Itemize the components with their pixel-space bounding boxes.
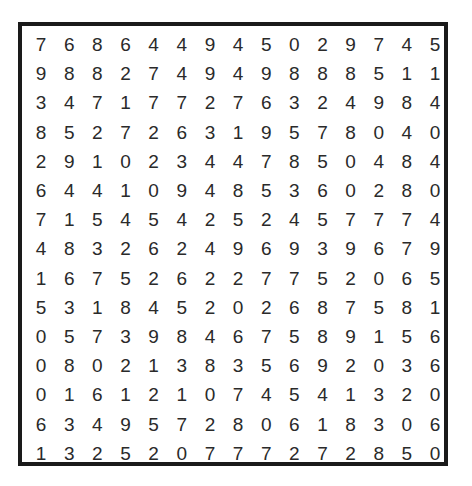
grid-cell: 4: [27, 234, 55, 263]
grid-cell: 0: [224, 293, 252, 322]
grid-cell: 3: [280, 176, 308, 205]
grid-cell: 2: [140, 439, 168, 468]
grid-cell: 7: [224, 380, 252, 409]
grid-cell: 5: [365, 59, 393, 88]
grid-cell: 6: [55, 30, 83, 59]
grid-cell: 3: [111, 322, 139, 351]
grid-cell: 6: [55, 264, 83, 293]
grid-cell: 6: [140, 234, 168, 263]
grid-cell: 6: [168, 118, 196, 147]
grid-cell: 5: [393, 322, 421, 351]
grid-cell: 6: [308, 176, 336, 205]
grid-cell: 9: [337, 322, 365, 351]
grid-cell: 4: [196, 147, 224, 176]
grid-row: 080213835692036: [27, 351, 449, 380]
grid-cell: 6: [27, 176, 55, 205]
grid-cell: 1: [27, 439, 55, 468]
grid-cell: 7: [168, 88, 196, 117]
grid-cell: 2: [393, 380, 421, 409]
grid-cell: 0: [365, 351, 393, 380]
grid-cell: 8: [280, 147, 308, 176]
grid-cell: 8: [55, 234, 83, 263]
grid-cell: 6: [111, 30, 139, 59]
grid-cell: 4: [365, 147, 393, 176]
grid-cell: 1: [83, 293, 111, 322]
grid-row: 634957280618306: [27, 409, 449, 438]
grid-cell: 0: [83, 351, 111, 380]
grid-cell: 7: [140, 59, 168, 88]
grid-cell: 1: [308, 410, 336, 439]
grid-cell: 3: [365, 410, 393, 439]
grid-cell: 5: [280, 118, 308, 147]
grid-cell: 2: [280, 439, 308, 468]
grid-cell: 4: [55, 88, 83, 117]
grid-cell: 1: [224, 118, 252, 147]
grid-cell: 3: [55, 439, 83, 468]
grid-cell: 7: [308, 118, 336, 147]
grid-cell: 4: [83, 410, 111, 439]
grid-cell: 1: [365, 322, 393, 351]
grid-cell: 8: [337, 410, 365, 439]
grid-row: 167526227752065: [27, 264, 449, 293]
grid-cell: 2: [111, 351, 139, 380]
grid-cell: 4: [196, 176, 224, 205]
grid-cell: 1: [421, 59, 449, 88]
grid-cell: 4: [421, 88, 449, 117]
grid-cell: 2: [196, 293, 224, 322]
grid-cell: 1: [111, 380, 139, 409]
grid-cell: 9: [308, 351, 336, 380]
grid-cell: 7: [83, 264, 111, 293]
grid-cell: 4: [421, 147, 449, 176]
grid-cell: 0: [421, 176, 449, 205]
grid-cell: 7: [27, 205, 55, 234]
grid-cell: 8: [393, 176, 421, 205]
grid-cell: 7: [252, 147, 280, 176]
grid-cell: 7: [168, 410, 196, 439]
grid-cell: 9: [252, 59, 280, 88]
grid-cell: 8: [337, 59, 365, 88]
grid-cell: 9: [337, 234, 365, 263]
grid-cell: 7: [393, 205, 421, 234]
grid-cell: 4: [111, 205, 139, 234]
grid-row: 291023447850484: [27, 147, 449, 176]
grid-cell: 5: [252, 176, 280, 205]
grid-cell: 9: [365, 88, 393, 117]
grid-cell: 7: [252, 439, 280, 468]
grid-cell: 8: [55, 351, 83, 380]
grid-cell: 9: [337, 30, 365, 59]
grid-cell: 2: [252, 205, 280, 234]
grid-cell: 3: [168, 351, 196, 380]
grid-cell: 6: [365, 234, 393, 263]
grid-cell: 0: [27, 380, 55, 409]
grid-cell: 2: [337, 439, 365, 468]
grid-cell: 2: [27, 147, 55, 176]
grid-cell: 0: [365, 118, 393, 147]
grid-cell: 7: [308, 439, 336, 468]
grid-row: 483262496939679: [27, 234, 449, 263]
grid-cell: 2: [196, 264, 224, 293]
grid-cell: 1: [27, 264, 55, 293]
grid-cell: 7: [365, 205, 393, 234]
grid-cell: 6: [280, 351, 308, 380]
grid-cell: 1: [55, 205, 83, 234]
grid-cell: 2: [83, 439, 111, 468]
grid-row: 016121074541320: [27, 380, 449, 409]
grid-cell: 4: [83, 176, 111, 205]
grid-cell: 8: [393, 293, 421, 322]
grid-cell: 7: [224, 88, 252, 117]
grid-cell: 7: [252, 322, 280, 351]
grid-cell: 9: [27, 59, 55, 88]
grid-cell: 7: [280, 264, 308, 293]
grid-cell: 7: [140, 88, 168, 117]
grid-cell: 8: [280, 59, 308, 88]
grid-cell: 4: [196, 234, 224, 263]
grid-cell: 7: [196, 439, 224, 468]
grid-cell: 4: [168, 30, 196, 59]
grid-cell: 0: [27, 351, 55, 380]
grid-cell: 7: [111, 118, 139, 147]
grid-cell: 7: [224, 439, 252, 468]
grid-cell: 3: [224, 351, 252, 380]
grid-cell: 0: [252, 410, 280, 439]
grid-cell: 8: [168, 322, 196, 351]
grid-cell: 0: [337, 176, 365, 205]
